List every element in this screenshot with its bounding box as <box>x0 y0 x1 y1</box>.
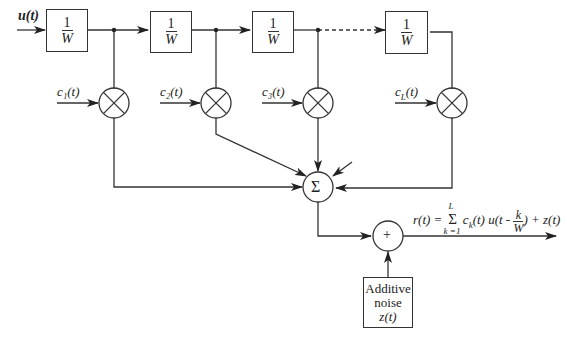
adder-symbol: + <box>383 227 391 243</box>
eq-summation: L Σ k =1 <box>446 211 460 228</box>
eq-lhs: r(t) = <box>413 212 442 227</box>
delay-numerator: 1 <box>268 17 279 32</box>
delay-denominator: W <box>267 32 279 47</box>
noise-line-2: noise <box>374 296 401 310</box>
delay-denominator: W <box>165 32 177 47</box>
tapped-delay-line-diagram: u(t) 1 W 1 W 1 W 1 W c₁(t) c₂(t) c₃(t) c… <box>0 0 567 337</box>
delay-numerator: 1 <box>401 18 412 33</box>
delay-denominator: W <box>61 31 73 46</box>
noise-line-3: z(t) <box>379 310 396 324</box>
input-label: u(t) <box>18 8 39 24</box>
eq-fraction: k W <box>513 209 523 234</box>
coefficient-label-cL: cL(t) <box>395 84 418 102</box>
summer-symbol: Σ <box>311 178 320 196</box>
noise-line-1: Additive <box>365 282 411 296</box>
delay-block-2: 1 W <box>150 11 192 53</box>
coefficient-label-c2: c₂(t) <box>160 84 183 100</box>
delay-numerator: 1 <box>166 17 177 32</box>
delay-block-1: 1 W <box>46 9 88 52</box>
output-equation: r(t) = L Σ k =1 ck(t) u(t - k W ) + z(t) <box>413 209 560 234</box>
delay-block-3: 1 W <box>252 11 294 53</box>
coefficient-label-c1: c₁(t) <box>57 84 80 100</box>
additive-noise-block: Additive noise z(t) <box>363 277 413 328</box>
delay-block-L: 1 W <box>385 11 428 54</box>
delay-denominator: W <box>401 33 413 48</box>
delay-numerator: 1 <box>62 16 73 31</box>
coefficient-label-c3: c₃(t) <box>262 84 285 100</box>
